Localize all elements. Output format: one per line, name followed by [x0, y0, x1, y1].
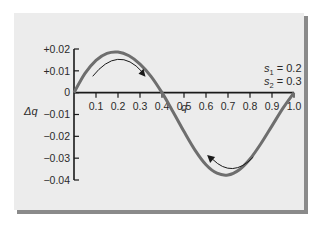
x-tick-label: 0.7 — [221, 100, 236, 112]
y-tick-label: +0.01 — [43, 65, 70, 77]
delta-q-curve — [74, 52, 294, 175]
y-tick-label: −0.04 — [43, 174, 70, 186]
x-axis-ticks: 0.10.20.30.40.50.60.70.80.91.0 — [89, 93, 302, 112]
selection-chart: +0.02+0.010−0.01−0.02−0.03−0.04 0.10.20.… — [0, 0, 334, 229]
x-tick-label: 0.2 — [111, 100, 126, 112]
x-tick-label: 0.6 — [199, 100, 214, 112]
param-s2: s2 = 0.3 — [264, 75, 302, 90]
y-tick-label: −0.01 — [43, 108, 70, 120]
y-tick-label: +0.02 — [43, 43, 70, 55]
x-tick-label: 0.8 — [243, 100, 258, 112]
y-tick-label: −0.03 — [43, 152, 70, 164]
x-axis-label: q — [181, 101, 188, 113]
y-tick-label: −0.02 — [43, 130, 70, 142]
param-s2-value: = 0.3 — [274, 75, 302, 87]
y-axis-label: Δq — [23, 105, 38, 117]
arrow-lower-left — [213, 157, 254, 168]
arrow-upper-right — [93, 59, 143, 76]
param-s1-value: = 0.2 — [274, 62, 302, 74]
x-tick-label: 0.9 — [265, 100, 280, 112]
x-tick-label: 0.3 — [133, 100, 148, 112]
y-tick-label: 0 — [64, 86, 70, 98]
x-tick-label: 0.1 — [89, 100, 104, 112]
arrowhead-lower — [207, 155, 215, 163]
